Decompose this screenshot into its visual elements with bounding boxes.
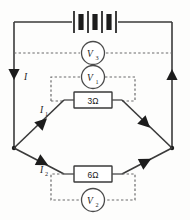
current-i1-letter: I: [39, 105, 44, 115]
arrow-left-rail: [8, 69, 19, 80]
current-i-letter: I: [23, 72, 28, 82]
voltmeter-v3-body: [82, 42, 105, 65]
voltmeter-v3-subscript: 3: [96, 54, 99, 61]
voltmeter-v1-body: [82, 66, 105, 89]
voltmeter-v2-body: [82, 189, 105, 212]
arrow-upper-left-branch: [34, 114, 51, 131]
current-i1-subscript: 1: [45, 110, 48, 117]
battery-symbol: [74, 11, 116, 33]
circuit-schematic-canvas: V 3 V 1 V 2 3Ω 6Ω I I 1 I 2: [0, 0, 190, 220]
resistor-6ohm-label: 6Ω: [88, 170, 99, 180]
current-i2-letter: I: [39, 165, 44, 175]
arrow-right-rail: [166, 69, 177, 80]
current-i2-subscript: 2: [45, 170, 48, 177]
voltmeter-v2-subscript: 2: [96, 201, 99, 208]
circuit-diagram: V 3 V 1 V 2 3Ω 6Ω I I 1 I 2: [0, 0, 190, 220]
arrow-lower-right-branch: [138, 153, 154, 169]
resistor-3ohm-label: 3Ω: [88, 96, 99, 106]
voltmeter-v1-subscript: 1: [96, 78, 99, 85]
